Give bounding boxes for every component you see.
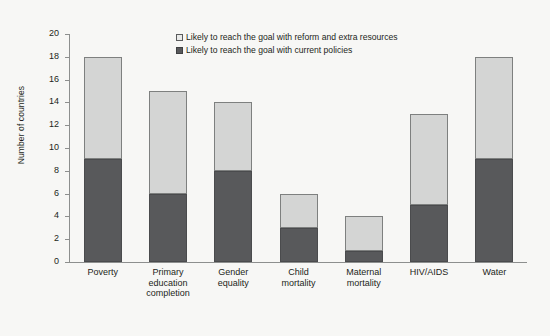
y-tick-label: 4 — [54, 210, 59, 221]
x-axis-label: Water — [452, 267, 536, 278]
bar-segment-reform — [345, 216, 383, 250]
y-tick-mark — [65, 125, 69, 126]
bar-group — [149, 91, 187, 262]
y-tick-label: 0 — [54, 256, 59, 267]
x-axis-label-line: Water — [452, 267, 536, 278]
bar-group — [345, 216, 383, 262]
y-tick-label: 8 — [54, 165, 59, 176]
y-tick-label: 2 — [54, 233, 59, 244]
bar-segment-current-policies — [280, 228, 318, 262]
y-tick-label: 18 — [49, 51, 59, 62]
bar-segment-reform — [149, 91, 187, 194]
bar-segment-current-policies — [84, 159, 122, 262]
y-tick-mark — [65, 57, 69, 58]
y-tick-mark — [65, 239, 69, 240]
bar-segment-current-policies — [345, 251, 383, 262]
bar-segment-reform — [410, 114, 448, 205]
bar-segment-current-policies — [475, 159, 513, 262]
stacked-bar-chart: Number of countries Likely to reach the … — [0, 0, 550, 336]
y-tick-mark — [65, 262, 69, 263]
y-tick-mark — [65, 194, 69, 195]
x-axis-label-line: completion — [126, 288, 210, 299]
bar-segment-reform — [214, 102, 252, 170]
y-axis-title: Number of countries — [14, 14, 28, 236]
bar-segment-reform — [475, 57, 513, 160]
y-tick-label: 20 — [49, 28, 59, 39]
y-tick-mark — [65, 171, 69, 172]
bar-group — [84, 57, 122, 262]
y-tick-mark — [65, 216, 69, 217]
y-tick-mark — [65, 102, 69, 103]
bar-segment-current-policies — [214, 171, 252, 262]
bar-segment-current-policies — [149, 194, 187, 262]
x-axis-label-line: mortality — [322, 278, 406, 289]
y-tick-label: 14 — [49, 96, 59, 107]
bar-segment-reform — [84, 57, 122, 160]
bar-segment-current-policies — [410, 205, 448, 262]
y-tick-label: 10 — [49, 142, 59, 153]
y-tick-mark — [65, 34, 69, 35]
y-tick-label: 16 — [49, 74, 59, 85]
bar-group — [280, 194, 318, 262]
x-axis-line — [69, 262, 527, 263]
bar-group — [475, 57, 513, 262]
y-tick-mark — [65, 80, 69, 81]
y-tick-label: 12 — [49, 119, 59, 130]
bar-group — [214, 102, 252, 262]
bar-group — [410, 114, 448, 262]
plot-area: 02468101214161820 — [69, 34, 527, 262]
y-tick-mark — [65, 148, 69, 149]
bar-series-container — [70, 34, 527, 262]
bar-segment-reform — [280, 194, 318, 228]
y-tick-label: 6 — [54, 188, 59, 199]
